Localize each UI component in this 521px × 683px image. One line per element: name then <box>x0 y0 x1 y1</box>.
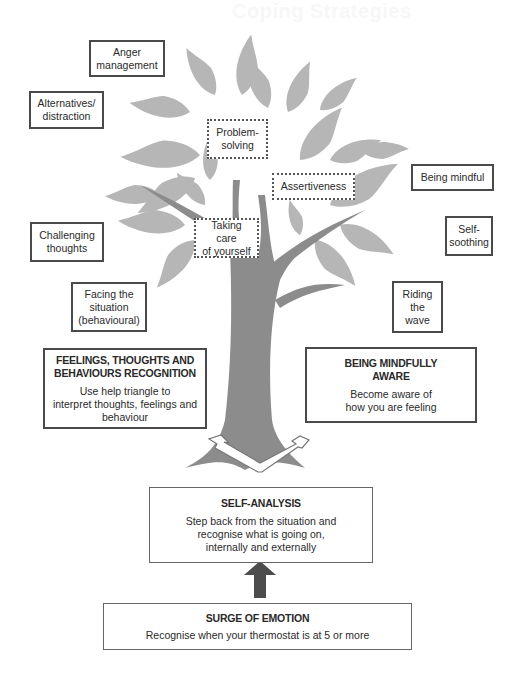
label: thoughts <box>47 242 87 255</box>
being-mindfully-aware-box: BEING MINDFULLY AWARE Become aware of ho… <box>305 347 477 423</box>
description-line: internally and externally <box>186 541 337 554</box>
label: distraction <box>43 110 91 123</box>
label: (behavioural) <box>78 314 139 327</box>
label: Riding <box>403 288 433 301</box>
strategy-riding-the-wave: Riding the wave <box>392 281 443 333</box>
label: Facing the <box>84 288 133 301</box>
surge-description: Recognise when your thermostat is at 5 o… <box>146 629 370 642</box>
label: Assertiveness <box>281 180 346 193</box>
feelings-recognition-title: FEELINGS, THOUGHTS AND BEHAVIOURS RECOGN… <box>54 354 196 380</box>
label: Being mindful <box>421 171 485 184</box>
strategy-taking-care-of-yourself: Taking care of yourself <box>194 218 259 258</box>
label: management <box>96 59 157 72</box>
description-line: behaviour <box>53 411 197 424</box>
description-line: recognise what is going on, <box>186 528 337 541</box>
self-analysis-title: SELF-ANALYSIS <box>221 497 301 510</box>
feelings-thoughts-behaviours-recognition-box: FEELINGS, THOUGHTS AND BEHAVIOURS RECOGN… <box>43 348 207 429</box>
strategy-self-soothing: Self- soothing <box>445 216 493 256</box>
strategy-anger-management: Anger management <box>89 40 165 77</box>
label: the <box>410 301 425 314</box>
label: situation <box>89 301 128 314</box>
strategy-challenging-thoughts: Challenging thoughts <box>30 222 104 262</box>
label: Self- <box>458 223 480 236</box>
mindfully-aware-title: BEING MINDFULLY AWARE <box>345 357 438 383</box>
self-analysis-description: Step back from the situation and recogni… <box>186 515 337 554</box>
up-arrow-icon <box>244 561 276 598</box>
description-line: Step back from the situation and <box>186 515 337 528</box>
strategy-being-mindful: Being mindful <box>411 164 494 191</box>
description-line: interpret thoughts, feelings and <box>53 398 197 411</box>
strategy-assertiveness: Assertiveness <box>272 173 355 200</box>
label: wave <box>405 314 430 327</box>
description-line: Become aware of <box>345 388 436 401</box>
surge-title: SURGE OF EMOTION <box>206 612 310 625</box>
self-analysis-box: SELF-ANALYSIS Step back from the situati… <box>149 487 373 563</box>
title-line: AWARE <box>345 370 438 383</box>
strategy-problem-solving: Problem- solving <box>207 119 268 159</box>
surge-of-emotion-box: SURGE OF EMOTION Recognise when your the… <box>103 603 412 650</box>
title-line: BEHAVIOURS RECOGNITION <box>54 367 196 380</box>
mindfully-aware-description: Become aware of how you are feeling <box>345 388 436 414</box>
label: Challenging <box>39 229 94 242</box>
description-line: Use help triangle to <box>53 385 197 398</box>
strategy-facing-the-situation: Facing the situation (behavioural) <box>71 282 147 332</box>
label: Taking care <box>200 219 253 245</box>
label: soothing <box>449 236 489 249</box>
feelings-recognition-description: Use help triangle to interpret thoughts,… <box>53 385 197 424</box>
label: Anger <box>113 46 141 59</box>
strategy-alternatives-distraction: Alternatives/ distraction <box>29 91 104 129</box>
label: Problem- <box>216 126 259 139</box>
description-line: how you are feeling <box>345 401 436 414</box>
title-line: FEELINGS, THOUGHTS AND <box>54 354 196 367</box>
label: Alternatives/ <box>38 97 96 110</box>
label: of yourself <box>202 245 250 258</box>
label: solving <box>221 139 254 152</box>
title-line: BEING MINDFULLY <box>345 357 438 370</box>
